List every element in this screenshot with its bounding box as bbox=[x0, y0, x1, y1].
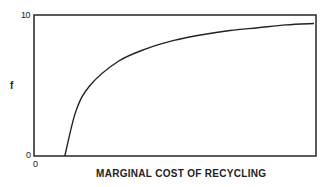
chart-canvas bbox=[0, 0, 327, 187]
y-tick-zero: 0 bbox=[26, 151, 31, 160]
x-tick-zero: 0 bbox=[33, 160, 38, 169]
data-curve bbox=[65, 23, 314, 156]
y-tick-top: 10 bbox=[21, 11, 30, 20]
plot-frame bbox=[34, 15, 316, 156]
x-axis-label: MARGINAL COST OF RECYCLING bbox=[96, 169, 266, 178]
y-axis-label: f bbox=[10, 81, 13, 90]
